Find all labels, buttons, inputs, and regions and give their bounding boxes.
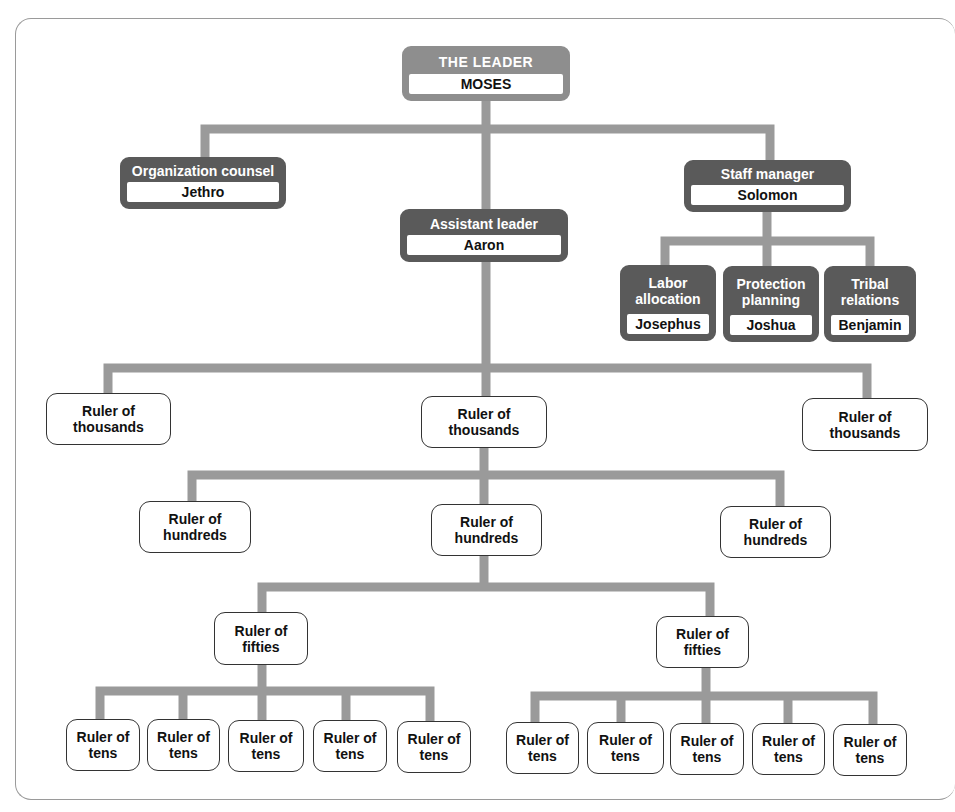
organization-counsel-title: Organization counsel <box>123 160 283 182</box>
box-label: Ruler of tens <box>157 729 210 761</box>
box-label: Ruler of tens <box>599 732 652 764</box>
ruler-of-tens-box: Ruler of tens <box>147 719 220 771</box>
box-label: Ruler of fifties <box>676 626 729 658</box>
box-label: Ruler of fifties <box>235 623 288 655</box>
ruler-of-tens-box: Ruler of tens <box>397 721 471 773</box>
ruler-of-tens-box: Ruler of tens <box>506 722 579 774</box>
ruler-of-tens-box: Ruler of tens <box>752 723 825 775</box>
staff-title: Labor allocation <box>623 268 713 314</box>
leader-box: THE LEADER MOSES <box>402 46 570 101</box>
staff-name: Benjamin <box>831 315 909 335</box>
box-label: Ruler of tens <box>324 730 377 762</box>
ruler-of-hundreds-box: Ruler of hundreds <box>431 504 542 556</box>
ruler-of-fifties-box: Ruler of fifties <box>656 616 749 668</box>
staff-manager-title: Staff manager <box>687 163 848 185</box>
staff-name: Joshua <box>730 315 812 335</box>
organization-counsel-box: Organization counsel Jethro <box>120 157 286 209</box>
ruler-of-hundreds-box: Ruler of hundreds <box>720 506 831 558</box>
box-label: Ruler of hundreds <box>744 516 808 548</box>
box-label: Ruler of hundreds <box>163 511 227 543</box>
assistant-leader-name: Aaron <box>407 235 561 255</box>
ruler-of-tens-box: Ruler of tens <box>228 720 304 772</box>
assistant-leader-box: Assistant leader Aaron <box>400 209 568 262</box>
box-label: Ruler of tens <box>844 734 897 766</box>
staff-protection-planning-box: Protection planning Joshua <box>723 266 819 342</box>
leader-name: MOSES <box>409 74 563 94</box>
ruler-of-fifties-box: Ruler of fifties <box>214 612 308 665</box>
ruler-of-thousands-box: Ruler of thousands <box>421 396 547 448</box>
ruler-of-tens-box: Ruler of tens <box>313 720 387 772</box>
ruler-of-thousands-box: Ruler of thousands <box>46 393 171 445</box>
assistant-leader-title: Assistant leader <box>403 212 565 235</box>
staff-title: Protection planning <box>726 269 816 315</box>
organization-counsel-name: Jethro <box>127 182 279 202</box>
box-label: Ruler of tens <box>762 733 815 765</box>
ruler-of-tens-box: Ruler of tens <box>670 723 744 775</box>
box-label: Ruler of tens <box>77 729 130 761</box>
ruler-of-hundreds-box: Ruler of hundreds <box>139 501 251 553</box>
box-label: Ruler of thousands <box>830 409 901 441</box>
box-label: Ruler of thousands <box>73 403 144 435</box>
ruler-of-tens-box: Ruler of tens <box>587 722 664 774</box>
box-label: Ruler of tens <box>408 731 461 763</box>
staff-tribal-relations-box: Tribal relations Benjamin <box>824 266 916 342</box>
box-label: Ruler of hundreds <box>455 514 519 546</box>
ruler-of-thousands-box: Ruler of thousands <box>802 398 928 451</box>
staff-labor-allocation-box: Labor allocation Josephus <box>620 265 716 341</box>
staff-title: Tribal relations <box>827 269 913 315</box>
box-label: Ruler of tens <box>240 730 293 762</box>
box-label: Ruler of tens <box>681 733 734 765</box>
staff-manager-name: Solomon <box>691 185 844 205</box>
ruler-of-tens-box: Ruler of tens <box>833 724 907 776</box>
box-label: Ruler of tens <box>516 732 569 764</box>
staff-name: Josephus <box>627 314 709 334</box>
leader-title: THE LEADER <box>405 49 567 74</box>
box-label: Ruler of thousands <box>449 406 520 438</box>
ruler-of-tens-box: Ruler of tens <box>66 719 140 771</box>
staff-manager-box: Staff manager Solomon <box>684 160 851 212</box>
